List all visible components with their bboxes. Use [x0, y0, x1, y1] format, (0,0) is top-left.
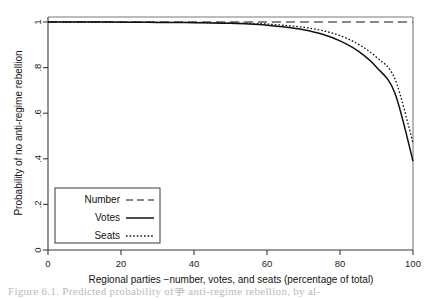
y-axis-tick-labels: 0 .2 .4 .6 .8 1 — [32, 19, 43, 252]
figure-container: 0 .2 .4 .6 .8 1 0 20 40 60 80 100 Probab… — [0, 0, 435, 299]
y-axis-ticks — [43, 22, 48, 250]
x-axis-tick-labels: 0 20 40 60 80 100 — [45, 258, 421, 269]
series-line-votes — [48, 22, 413, 161]
legend-label-votes: Votes — [95, 212, 120, 223]
svg-text:80: 80 — [335, 258, 346, 269]
svg-text:0: 0 — [45, 258, 50, 269]
x-axis-title: Regional parties −number, votes, and sea… — [89, 274, 374, 285]
series-line-seats — [48, 22, 413, 143]
figure-caption: Figure 6.1. Predicted probability of争 an… — [8, 288, 320, 298]
x-axis-ticks — [48, 250, 413, 255]
svg-text:20: 20 — [116, 258, 127, 269]
svg-text:.4: .4 — [32, 155, 43, 163]
svg-text:60: 60 — [262, 258, 273, 269]
svg-text:0: 0 — [32, 247, 43, 252]
svg-text:.8: .8 — [32, 64, 43, 72]
y-axis-title: Probability of no anti-regime rebellion — [13, 50, 24, 215]
svg-text:100: 100 — [405, 258, 421, 269]
figure-caption-strip: Figure 6.1. Predicted probability of争 an… — [0, 288, 435, 299]
chart-canvas: 0 .2 .4 .6 .8 1 0 20 40 60 80 100 Probab… — [0, 0, 435, 299]
svg-text:40: 40 — [189, 258, 200, 269]
series-group — [48, 22, 413, 161]
svg-text:.6: .6 — [32, 109, 43, 117]
legend-label-number: Number — [84, 194, 120, 205]
legend-label-seats: Seats — [94, 230, 120, 241]
svg-text:1: 1 — [32, 19, 43, 24]
svg-text:.2: .2 — [32, 200, 43, 208]
chart-legend[interactable]: Number Votes Seats — [55, 188, 160, 243]
